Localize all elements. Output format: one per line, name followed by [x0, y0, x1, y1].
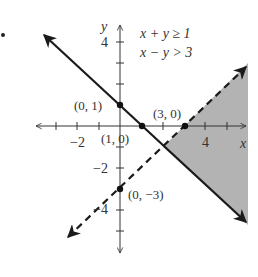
point-label-3-0: (3, 0)	[153, 106, 181, 121]
y-tick-label-4: 4	[101, 35, 108, 50]
y-tick-label-neg4: −4	[93, 202, 108, 217]
point-label-1-0: (1, 0)	[101, 131, 129, 146]
x-tick-label-neg2: −2	[70, 135, 85, 150]
inequality-2: x − y > 3	[139, 45, 192, 60]
inequality-graph: y x 4 −2 −4 −2 4 (0, 1) (1, 0) (3, 0) (0…	[0, 0, 258, 277]
y-axis-label: y	[99, 19, 108, 34]
point-0-neg3	[117, 186, 123, 192]
point-1-0	[139, 123, 145, 129]
inequality-1: x + y ≥ 1	[139, 26, 191, 41]
point-label-0-1: (0, 1)	[74, 98, 102, 113]
y-tick-label-neg2: −2	[93, 161, 108, 176]
point-0-1	[117, 102, 123, 108]
point-label-0-neg3: (0, −3)	[128, 187, 164, 202]
x-axis-label: x	[239, 136, 247, 151]
bullet-dot	[1, 33, 5, 37]
point-3-0	[182, 123, 188, 129]
x-tick-label-4: 4	[202, 135, 209, 150]
